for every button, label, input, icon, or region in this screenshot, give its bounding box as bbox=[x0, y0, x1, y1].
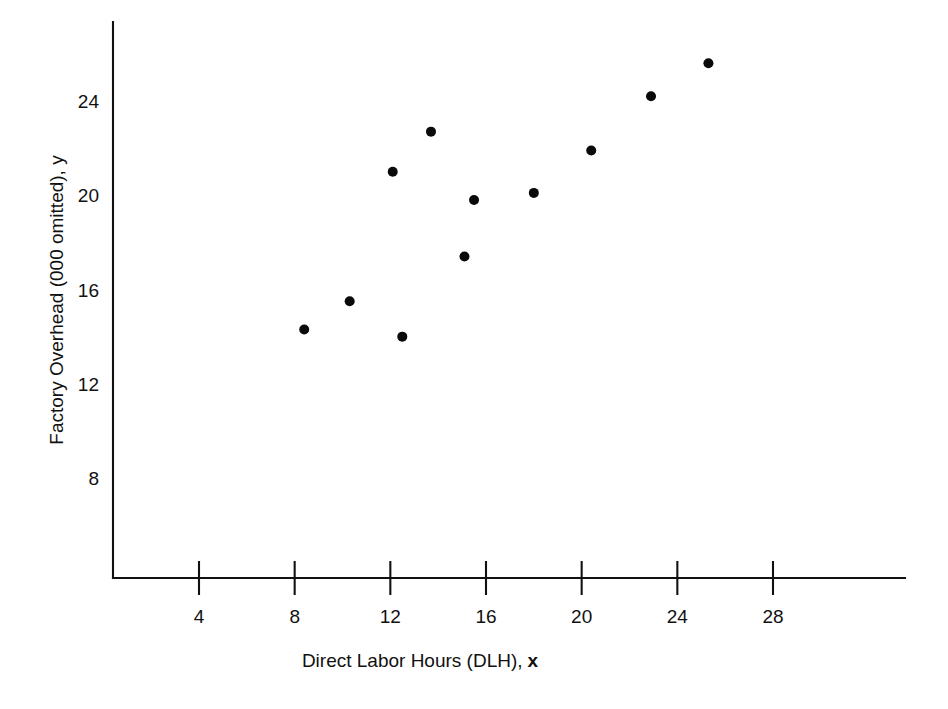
x-axis-title-symbol: x bbox=[528, 650, 539, 671]
x-tick-label: 24 bbox=[667, 606, 689, 627]
data-point bbox=[469, 195, 479, 205]
data-point bbox=[388, 167, 398, 177]
data-point bbox=[426, 127, 436, 137]
data-point bbox=[459, 252, 469, 262]
x-tick-label: 16 bbox=[475, 606, 496, 627]
x-tick-label: 4 bbox=[194, 606, 205, 627]
y-axis-title: Factory Overhead (000 omitted), y bbox=[46, 155, 67, 445]
data-point bbox=[529, 188, 539, 198]
y-tick-label: 16 bbox=[78, 280, 99, 301]
y-axis-ticks: 812162024 bbox=[78, 91, 100, 489]
axis-titles-group: Direct Labor Hours (DLH),xFactory Overhe… bbox=[46, 155, 539, 671]
data-points-group bbox=[299, 58, 713, 341]
scatter-chart-figure: 481216202428 812162024 Direct Labor Hour… bbox=[0, 0, 948, 709]
data-point bbox=[703, 58, 713, 68]
data-point bbox=[586, 145, 596, 155]
y-tick-label: 24 bbox=[78, 91, 100, 112]
x-tick-label: 8 bbox=[289, 606, 300, 627]
x-tick-label: 12 bbox=[380, 606, 401, 627]
x-axis-title: Direct Labor Hours (DLH),x bbox=[302, 650, 539, 671]
y-tick-label: 8 bbox=[88, 468, 99, 489]
data-point bbox=[299, 325, 309, 335]
scatter-plot-canvas: 481216202428 812162024 Direct Labor Hour… bbox=[0, 0, 948, 709]
x-axis-ticks: 481216202428 bbox=[194, 561, 784, 627]
y-tick-label: 12 bbox=[78, 374, 99, 395]
data-point bbox=[345, 296, 355, 306]
data-point bbox=[646, 91, 656, 101]
axes-group bbox=[113, 22, 905, 578]
x-tick-label: 28 bbox=[762, 606, 783, 627]
data-point bbox=[397, 332, 407, 342]
x-tick-label: 20 bbox=[571, 606, 592, 627]
x-axis-title-text: Direct Labor Hours (DLH), bbox=[302, 650, 523, 671]
y-tick-label: 20 bbox=[78, 185, 99, 206]
